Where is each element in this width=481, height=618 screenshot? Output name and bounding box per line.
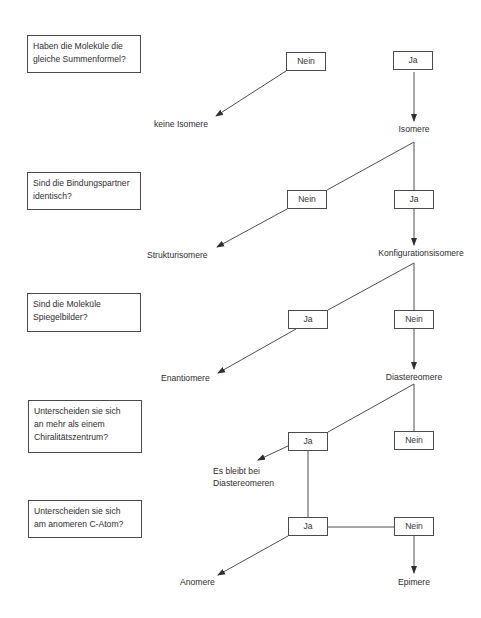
result-text: Es bleibt bei: [213, 465, 274, 477]
result-es-bleibt-bei-diastereomeren: Es bleibt bei Diastereomeren: [213, 465, 274, 489]
question-text: gleiche Summenformel?: [33, 53, 135, 66]
result-anomere: Anomere: [180, 576, 215, 588]
answer-q5-ja: Ja: [288, 517, 328, 536]
question-box-anomeric-carbon: Unterscheiden sie sich am anomeren C-Ato…: [28, 500, 142, 538]
question-text: Haben die Moleküle die: [33, 40, 135, 53]
edge-q2-nein-to-strukturisomere: [217, 209, 287, 247]
question-box-mirror-images: Sind die Moleküle Spiegelbilder?: [27, 293, 141, 332]
question-text: Unterscheiden sie sich: [34, 405, 136, 418]
answer-q2-nein: Nein: [287, 190, 327, 209]
question-text: an mehr als einem: [34, 418, 136, 431]
result-strukturisomere: Strukturisomere: [147, 249, 208, 261]
question-box-chirality-centers: Unterscheiden sie sich an mehr als einem…: [28, 400, 142, 453]
question-text: Chiralitätszentrum?: [34, 431, 136, 444]
question-text: Spiegelbilder?: [33, 311, 135, 324]
answer-q1-nein: Nein: [286, 52, 326, 71]
edge-q1-nein-to-keine-isomere: [216, 71, 286, 116]
edge-q3-ja-to-enantiomere: [218, 329, 296, 373]
answer-q4-nein: Nein: [394, 431, 434, 450]
question-text: identisch?: [33, 190, 135, 203]
question-text: Sind die Moleküle: [33, 298, 135, 311]
answer-q1-ja: Ja: [393, 51, 433, 70]
edge-q5-ja-to-anomere: [218, 536, 288, 575]
answer-q4-ja: Ja: [288, 432, 328, 451]
question-box-binding-partners: Sind die Bindungspartner identisch?: [27, 172, 141, 210]
result-isomere: Isomere: [398, 123, 429, 135]
result-text: Diastereomeren: [213, 477, 274, 489]
result-epimere: Epimere: [398, 576, 430, 588]
question-text: Sind die Bindungspartner: [33, 177, 135, 190]
edge-isomere-split: [327, 142, 414, 190]
question-text: Unterscheiden sie sich: [34, 505, 136, 518]
answer-q3-ja: Ja: [288, 310, 328, 329]
answer-q3-nein: Nein: [394, 310, 434, 329]
answer-q5-nein: Nein: [394, 517, 434, 536]
question-box-same-formula: Haben die Moleküle die gleiche Summenfor…: [27, 35, 141, 73]
edge-q4-ja-to-es-bleibt: [258, 446, 288, 460]
edge-diastereomere-split: [328, 384, 414, 432]
answer-q2-ja: Ja: [394, 190, 434, 209]
result-diastereomere: Diastereomere: [386, 371, 442, 383]
result-keine-isomere: keine Isomere: [154, 118, 208, 130]
result-enantiomere: Enantiomere: [161, 372, 210, 384]
question-text: am anomeren C-Atom?: [34, 518, 136, 531]
edge-konfigurationsisomere-split: [328, 263, 414, 310]
result-konfigurationsisomere: Konfigurationsisomere: [378, 247, 464, 259]
